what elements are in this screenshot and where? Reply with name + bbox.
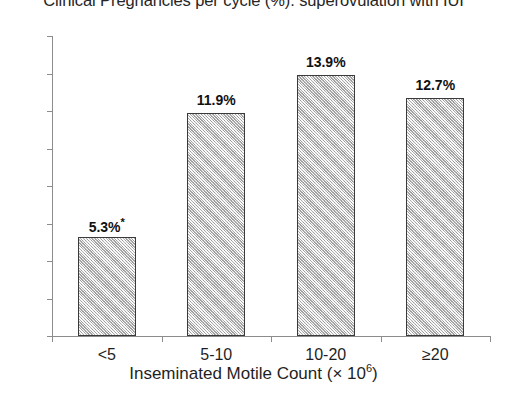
bar-value-label: 5.3%* <box>52 216 162 235</box>
bar-chart: Clinical Pregnancies per cycle (%): supe… <box>0 0 507 400</box>
x-axis-separator <box>271 336 272 342</box>
x-axis-separator <box>381 336 382 342</box>
x-axis-title: Inseminated Motile Count (× 106) <box>0 362 507 384</box>
y-axis-tick <box>47 299 52 300</box>
y-axis-tick <box>47 186 52 187</box>
bar <box>297 75 355 336</box>
y-axis-tick <box>47 74 52 75</box>
x-axis-separator <box>52 336 53 342</box>
bar-value-label: 12.7% <box>380 77 490 93</box>
x-axis-title-tail: ) <box>372 364 378 383</box>
y-axis-line <box>52 36 53 337</box>
y-axis-tick <box>47 36 52 37</box>
bar <box>406 98 464 336</box>
bar <box>187 113 245 336</box>
y-axis-tick <box>47 261 52 262</box>
x-axis-title-text: Inseminated Motile Count (× 10 <box>129 364 366 383</box>
y-axis-tick <box>47 111 52 112</box>
y-axis-tick <box>47 149 52 150</box>
x-axis-separator <box>490 336 491 342</box>
x-axis-separator <box>162 336 163 342</box>
chart-title: Clinical Pregnancies per cycle (%): supe… <box>0 0 507 10</box>
significance-asterisk: * <box>121 216 125 228</box>
plot-area: 0%2%4%6%8%10%12%14%16% 5.3%*11.9%13.9%12… <box>52 36 490 336</box>
bar-value-label: 13.9% <box>271 54 381 70</box>
bar <box>78 237 136 336</box>
bar-value-label: 11.9% <box>161 92 271 108</box>
